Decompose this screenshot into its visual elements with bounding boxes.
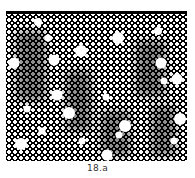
large-white-dot [15, 138, 27, 150]
figure-top-border [6, 11, 187, 14]
large-white-dot [119, 120, 131, 132]
large-white-dot [116, 132, 123, 139]
large-white-dot [112, 32, 124, 44]
large-white-dot [172, 74, 183, 85]
halftone-figure [6, 11, 187, 161]
large-white-dot [39, 128, 46, 135]
large-white-dot [174, 113, 186, 125]
large-white-dot [102, 150, 113, 161]
large-white-dot [63, 107, 75, 119]
large-white-dot [103, 94, 110, 101]
large-white-dot [79, 138, 86, 145]
dark-streak [66, 71, 91, 131]
large-white-dot [156, 58, 167, 69]
large-white-dot [34, 18, 42, 26]
figure-caption: 18.a [0, 163, 195, 173]
large-white-dot [52, 90, 63, 101]
dark-streak [151, 106, 176, 156]
large-white-dot [154, 27, 162, 35]
large-white-dot [75, 45, 87, 57]
large-white-dot [45, 35, 52, 42]
large-white-dot [24, 106, 31, 113]
large-white-dot [49, 55, 60, 66]
large-white-dot [161, 78, 168, 85]
dark-streak [16, 31, 46, 101]
dark-streak [136, 41, 166, 96]
large-white-dot [171, 138, 178, 145]
large-white-dot [9, 58, 20, 69]
